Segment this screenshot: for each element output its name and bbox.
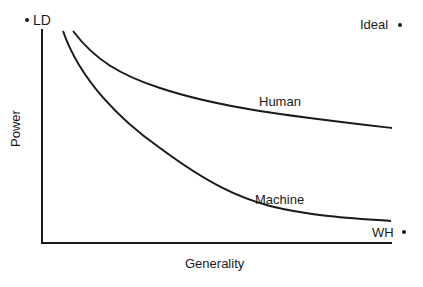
human-curve (73, 31, 392, 128)
ld-label: LD (33, 13, 51, 27)
y-axis-label: Power (8, 110, 23, 147)
wh-point-dot (402, 230, 406, 234)
ld-point-dot (25, 18, 29, 22)
human-curve-label: Human (259, 95, 301, 108)
machine-curve-label: Machine (255, 193, 304, 206)
x-axis-label: Generality (185, 257, 244, 270)
machine-curve (63, 31, 391, 221)
wh-label: WH (372, 226, 394, 239)
ideal-point-dot (398, 23, 402, 27)
chart-canvas (0, 0, 423, 287)
ideal-label: Ideal (360, 18, 388, 31)
